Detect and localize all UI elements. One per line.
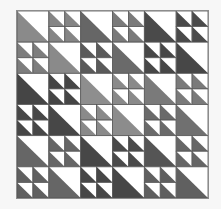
small-triangle-unit — [192, 151, 208, 167]
large-triangle-block — [144, 136, 176, 167]
large-triangle-block — [176, 167, 208, 198]
small-triangle-unit — [128, 27, 144, 43]
small-triangle-unit — [81, 182, 97, 198]
large-triangle-block — [17, 73, 49, 104]
small-triangle-unit — [81, 120, 97, 136]
small-triangle-unit — [176, 11, 192, 27]
small-triangle-unit — [192, 27, 208, 43]
small-triangle-unit — [33, 120, 49, 136]
small-triangle-unit — [128, 11, 144, 27]
large-triangle-block — [113, 105, 145, 136]
small-triangle-unit — [33, 58, 49, 74]
large-triangle-block — [144, 11, 176, 42]
quilt-grid — [17, 11, 208, 198]
small-triangle-unit — [192, 11, 208, 27]
small-triangle-unit — [144, 105, 160, 121]
small-triangle-unit — [144, 182, 160, 198]
small-triangle-unit — [49, 73, 65, 89]
small-triangle-unit — [160, 42, 176, 58]
large-triangle-block — [49, 167, 81, 198]
large-triangle-block — [144, 73, 176, 104]
small-triangle-unit — [49, 136, 65, 152]
small-triangle-unit — [160, 58, 176, 74]
small-triangle-unit — [192, 73, 208, 89]
small-triangle-unit — [113, 89, 129, 105]
large-triangle-block — [113, 42, 145, 73]
large-triangle-block — [176, 42, 208, 73]
small-triangle-unit — [17, 182, 33, 198]
small-triangle-unit — [81, 42, 97, 58]
small-triangle-unit — [17, 120, 33, 136]
small-triangle-unit — [113, 11, 129, 27]
small-triangle-unit — [113, 151, 129, 167]
small-triangle-unit — [192, 89, 208, 105]
small-triangle-unit — [17, 58, 33, 74]
small-triangle-unit — [176, 151, 192, 167]
small-triangle-unit — [97, 58, 113, 74]
small-triangle-unit — [113, 136, 129, 152]
small-triangle-unit — [49, 27, 65, 43]
small-triangle-unit — [81, 167, 97, 183]
large-triangle-block — [49, 105, 81, 136]
small-triangle-unit — [65, 151, 81, 167]
small-triangle-unit — [144, 167, 160, 183]
large-triangle-block — [17, 136, 49, 167]
large-triangle-block — [49, 42, 81, 73]
small-triangle-unit — [128, 89, 144, 105]
small-triangle-unit — [97, 167, 113, 183]
small-triangle-unit — [65, 136, 81, 152]
small-triangle-unit — [128, 73, 144, 89]
small-triangle-unit — [176, 27, 192, 43]
large-triangle-block — [81, 136, 113, 167]
small-triangle-unit — [17, 105, 33, 121]
small-triangle-unit — [33, 182, 49, 198]
small-triangle-unit — [113, 73, 129, 89]
small-triangle-unit — [81, 58, 97, 74]
small-triangle-unit — [176, 136, 192, 152]
small-triangle-unit — [97, 42, 113, 58]
large-triangle-block — [176, 105, 208, 136]
small-triangle-unit — [65, 11, 81, 27]
small-triangle-unit — [144, 58, 160, 74]
small-triangle-unit — [33, 42, 49, 58]
small-triangle-unit — [160, 105, 176, 121]
small-triangle-unit — [128, 136, 144, 152]
quilt-pattern — [16, 10, 209, 199]
small-triangle-unit — [160, 167, 176, 183]
small-triangle-unit — [192, 136, 208, 152]
small-triangle-unit — [97, 120, 113, 136]
large-triangle-block — [113, 167, 145, 198]
small-triangle-unit — [144, 42, 160, 58]
large-triangle-block — [81, 73, 113, 104]
small-triangle-unit — [49, 11, 65, 27]
small-triangle-unit — [17, 167, 33, 183]
small-triangle-unit — [33, 105, 49, 121]
small-triangle-unit — [17, 42, 33, 58]
small-triangle-unit — [144, 120, 160, 136]
small-triangle-unit — [128, 151, 144, 167]
large-triangle-block — [81, 11, 113, 42]
small-triangle-unit — [97, 105, 113, 121]
small-triangle-unit — [65, 73, 81, 89]
small-triangle-unit — [49, 89, 65, 105]
large-triangle-block — [17, 11, 49, 42]
small-triangle-unit — [97, 182, 113, 198]
small-triangle-unit — [65, 89, 81, 105]
small-triangle-unit — [160, 182, 176, 198]
small-triangle-unit — [160, 120, 176, 136]
small-triangle-unit — [49, 151, 65, 167]
small-triangle-unit — [81, 105, 97, 121]
small-triangle-unit — [65, 27, 81, 43]
small-triangle-unit — [113, 27, 129, 43]
small-triangle-unit — [33, 167, 49, 183]
small-triangle-unit — [176, 89, 192, 105]
small-triangle-unit — [176, 73, 192, 89]
